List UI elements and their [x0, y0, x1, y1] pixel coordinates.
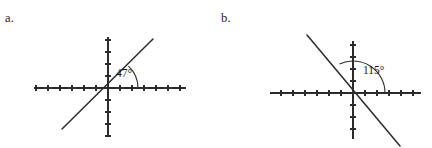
angle-label-a: 47° — [116, 67, 133, 79]
panel-b-diagram: 115° — [216, 0, 432, 148]
figure-root: a. b. 47° 115° — [0, 0, 432, 148]
panel-a-diagram: 47° — [0, 0, 216, 148]
panel-b-ticks — [281, 45, 413, 129]
angle-label-b: 115° — [363, 64, 385, 76]
